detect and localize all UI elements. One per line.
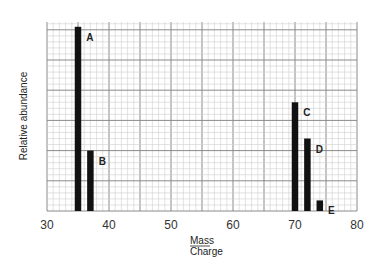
bar-d [304,139,311,211]
x-tick-label: 80 [350,218,364,232]
y-axis-label: Relative abundance [18,71,29,160]
bar-label-e: E [328,205,335,216]
mass-spectrum-chart: ABCDE 304050607080 Relative abundance Ma… [0,0,386,266]
bar-label-c: C [303,107,310,118]
x-tick-label: 70 [288,218,302,232]
bar-a [75,27,82,211]
bar-label-b: B [99,156,106,167]
x-tick-label: 50 [164,218,178,232]
x-tick-label: 40 [102,218,116,232]
x-tick-label: 60 [226,218,240,232]
bar-b [87,151,94,211]
x-tick-labels: 304050607080 [40,218,364,232]
bar-label-a: A [86,32,93,43]
bar-label-d: D [316,144,323,155]
bar-c [292,102,299,211]
x-tick-label: 30 [40,218,54,232]
x-axis-label-numerator: Mass [190,235,214,246]
bar-e [317,200,324,211]
bars [75,27,323,211]
x-axis-label-denominator: Charge [190,246,223,257]
